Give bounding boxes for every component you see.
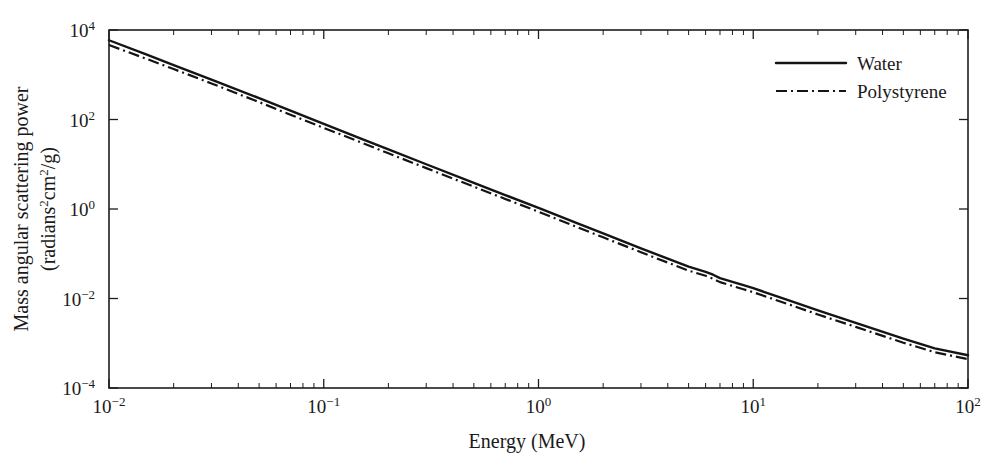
y-axis-title-line2: (radians2cm2/g) — [36, 147, 61, 271]
legend-label-water: Water — [857, 53, 903, 74]
chart-background — [0, 0, 1002, 466]
figure-container: 10−210−1100101102 10−410−2100102104 Wate… — [0, 0, 1002, 466]
legend-label-polystyrene: Polystyrene — [857, 81, 947, 102]
scattering-power-chart: 10−210−1100101102 10−410−2100102104 Wate… — [0, 0, 1002, 466]
y-axis-title-line1: Mass angular scattering power — [10, 86, 33, 331]
x-axis-title: Energy (MeV) — [469, 430, 586, 453]
